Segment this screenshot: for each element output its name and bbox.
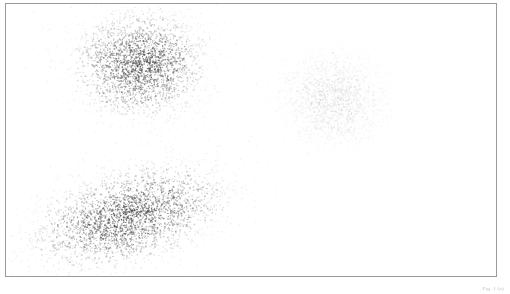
- figure-caption: Fig. 1 (a): [483, 285, 504, 293]
- scatter-plot-figure: Fig. 1 (a): [0, 0, 510, 294]
- scatter-point-cloud-canvas: [0, 0, 510, 294]
